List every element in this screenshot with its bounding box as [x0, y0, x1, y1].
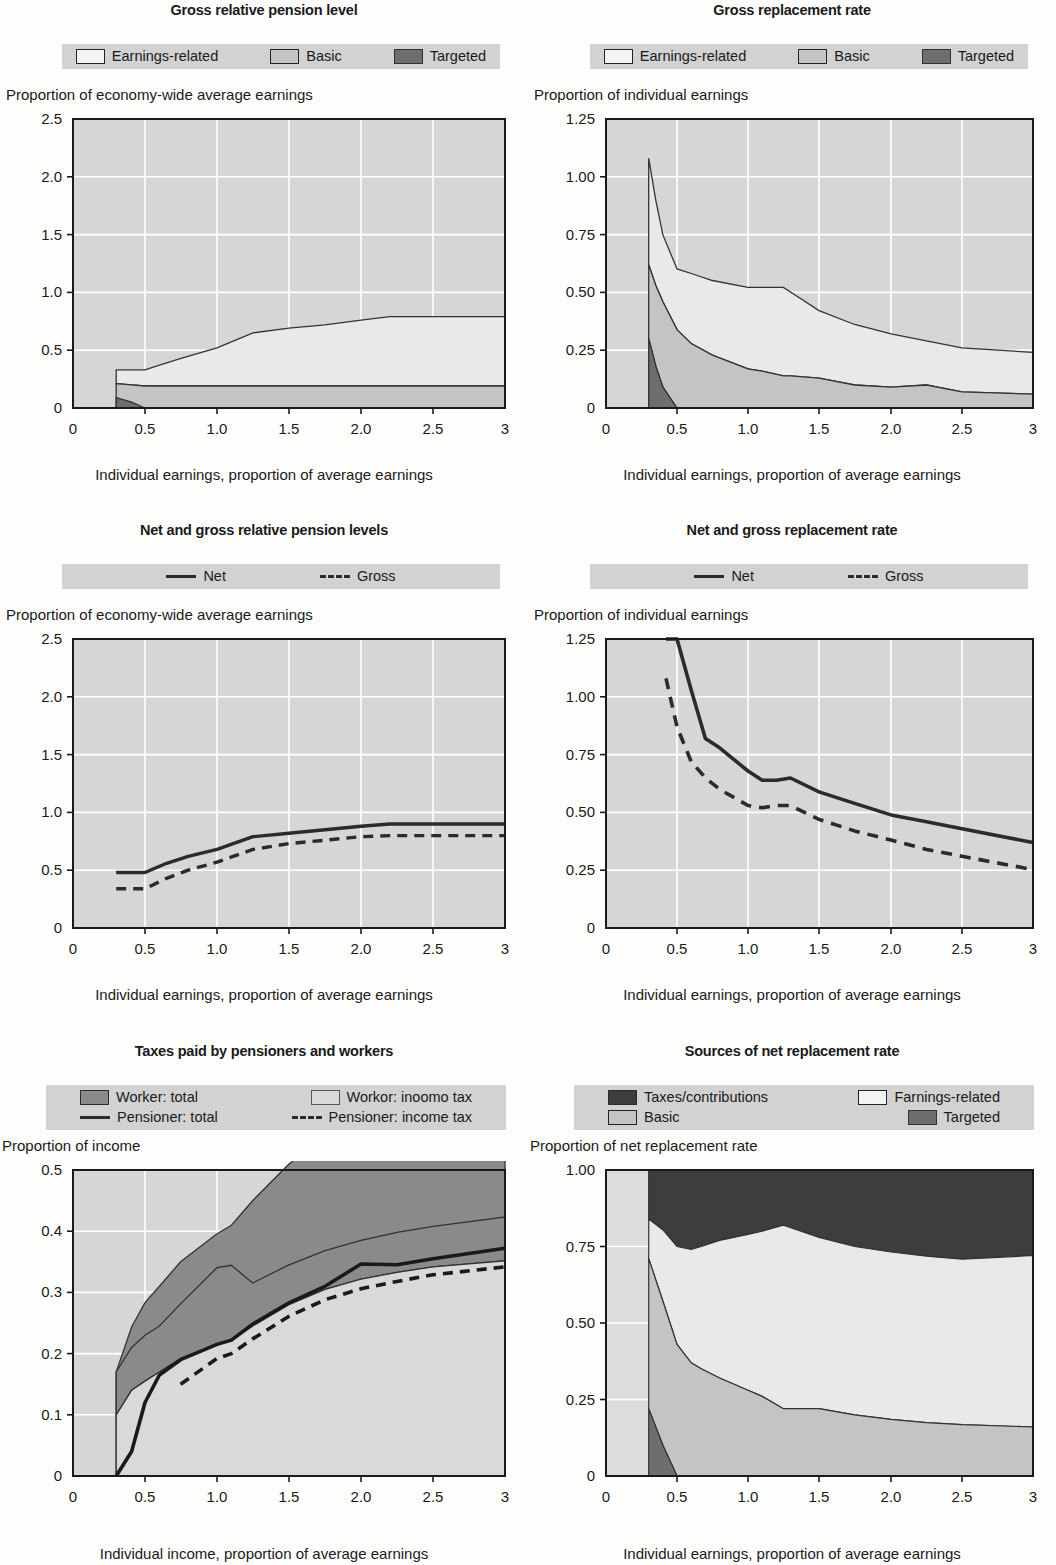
svg-text:0: 0: [587, 1467, 595, 1484]
svg-text:0: 0: [69, 940, 77, 957]
legend-item-targeted: Targeted: [908, 1109, 1000, 1125]
svg-text:1.0: 1.0: [738, 1488, 759, 1505]
legend-label: Gross: [357, 568, 396, 584]
legend-label: Worker: total: [116, 1089, 198, 1105]
svg-text:0.2: 0.2: [41, 1345, 62, 1362]
y-axis-ticks: 0.50.40.3 0.20.10: [41, 1161, 62, 1484]
svg-text:1.0: 1.0: [207, 1488, 228, 1505]
legend-item-basic: Basic: [608, 1109, 679, 1125]
x-axis-title: Individual earnings, proportion of avera…: [528, 986, 1056, 1003]
svg-text:2.5: 2.5: [423, 940, 444, 957]
svg-text:0.50: 0.50: [566, 803, 595, 820]
legend-item-net: Net: [166, 568, 226, 584]
svg-text:1.5: 1.5: [41, 226, 62, 243]
svg-text:0: 0: [602, 420, 610, 437]
svg-text:0.4: 0.4: [41, 1222, 62, 1239]
legend-label: Earnings-related: [112, 48, 218, 64]
y-axis-title: Proportion of economy-wide average earni…: [6, 86, 313, 103]
svg-text:1.00: 1.00: [566, 688, 595, 705]
swatch-earnings-related-icon: [76, 49, 105, 64]
svg-text:2.0: 2.0: [881, 420, 902, 437]
plot-area: 0.50.40.3 0.20.10 00.51.0 1.52.02.5 3: [0, 1161, 528, 1521]
svg-text:1.0: 1.0: [41, 283, 62, 300]
svg-text:2.5: 2.5: [41, 110, 62, 127]
legend-item-targeted: Targeted: [922, 48, 1014, 64]
swatch-worker-total-icon: [80, 1090, 109, 1105]
svg-text:1.5: 1.5: [41, 746, 62, 763]
legend-label: Earnings-related: [640, 48, 746, 64]
legend-item-earnings-related: Earnings-related: [604, 48, 746, 64]
svg-text:3: 3: [1029, 940, 1037, 957]
svg-text:3: 3: [1029, 420, 1037, 437]
legend-item-basic: Basic: [798, 48, 869, 64]
svg-text:1.5: 1.5: [279, 940, 300, 957]
swatch-dashed-line-icon: [292, 1116, 322, 1119]
swatch-solid-line-icon: [694, 575, 724, 578]
svg-text:2.5: 2.5: [41, 630, 62, 647]
svg-text:2.5: 2.5: [423, 1488, 444, 1505]
swatch-dashed-line-icon: [320, 575, 350, 578]
legend-label: Targeted: [944, 1109, 1000, 1125]
y-axis-title: Proportion of individual earnings: [534, 86, 748, 103]
panel-net-and-gross-replacement-rate: Net and gross replacement rate Net Gross…: [528, 500, 1056, 1025]
swatch-worker-income-tax-icon: [311, 1090, 340, 1105]
chart-legend: Earnings-related Basic Targeted: [590, 44, 1028, 69]
legend-label: Basic: [834, 48, 869, 64]
svg-text:2.5: 2.5: [952, 1488, 973, 1505]
plot-area: 1.000.750.50 0.250 00.51.0 1.52.02.5 3: [528, 1161, 1056, 1521]
x-axis-title: Individual earnings, proportion of avera…: [528, 466, 1056, 483]
svg-text:2.0: 2.0: [881, 1488, 902, 1505]
chart-title: Net and gross replacement rate: [528, 522, 1056, 538]
chart-title: Taxes paid by pensioners and workers: [0, 1043, 528, 1059]
svg-text:0.5: 0.5: [135, 420, 156, 437]
svg-text:0: 0: [587, 919, 595, 936]
legend-label: Basic: [644, 1109, 679, 1125]
svg-text:1.0: 1.0: [738, 940, 759, 957]
plot-area: 2.52.01.5 1.00.50 00.51.0 1.52.02.5 3: [0, 630, 528, 960]
legend-item-targeted: Targeted: [394, 48, 486, 64]
svg-text:0: 0: [69, 1488, 77, 1505]
chart-legend: Net Gross: [62, 564, 500, 589]
legend-label: Taxes/contributions: [644, 1089, 768, 1105]
plot-area: 1.251.000.75 0.500.250 00.51.0 1.52.02.5…: [528, 630, 1056, 960]
svg-text:0.75: 0.75: [566, 1238, 595, 1255]
svg-text:2.0: 2.0: [351, 940, 372, 957]
svg-text:1.00: 1.00: [566, 168, 595, 185]
legend-item-pensioner-income-tax: Pensioner: income tax: [292, 1109, 472, 1125]
svg-text:2.0: 2.0: [41, 688, 62, 705]
charts-grid: Gross relative pension level Earnings-re…: [0, 0, 1056, 1565]
svg-text:2.0: 2.0: [351, 1488, 372, 1505]
panel-sources-of-net-replacement-rate: Sources of net replacement rate Taxes/co…: [528, 1025, 1056, 1565]
svg-text:1.0: 1.0: [738, 420, 759, 437]
swatch-basic-icon: [270, 49, 299, 64]
svg-text:1.5: 1.5: [809, 420, 830, 437]
svg-text:0.75: 0.75: [566, 226, 595, 243]
swatch-basic-icon: [798, 49, 827, 64]
y-axis-title: Proportion of individual earnings: [534, 606, 748, 623]
svg-text:0.75: 0.75: [566, 746, 595, 763]
legend-item-pensioner-total: Pensioner: total: [80, 1109, 218, 1125]
swatch-basic-icon: [608, 1110, 637, 1125]
svg-text:0: 0: [54, 1467, 62, 1484]
x-axis-title: Individual earnings, proportion of avera…: [0, 466, 528, 483]
legend-item-gross: Gross: [848, 568, 924, 584]
svg-text:0.5: 0.5: [135, 940, 156, 957]
svg-text:0.50: 0.50: [566, 283, 595, 300]
svg-text:1.00: 1.00: [566, 1161, 595, 1178]
legend-label: Targeted: [958, 48, 1014, 64]
svg-text:3: 3: [501, 1488, 509, 1505]
svg-text:1.25: 1.25: [566, 630, 595, 647]
legend-label: Net: [731, 568, 754, 584]
svg-text:0.5: 0.5: [667, 1488, 688, 1505]
svg-text:1.5: 1.5: [279, 1488, 300, 1505]
x-axis-ticks: 00.51.0 1.52.02.5 3: [602, 940, 1037, 957]
svg-text:2.5: 2.5: [952, 940, 973, 957]
chart-title: Gross replacement rate: [528, 2, 1056, 18]
swatch-targeted-icon: [394, 49, 423, 64]
svg-text:0.25: 0.25: [566, 1391, 595, 1408]
svg-text:2.0: 2.0: [41, 168, 62, 185]
plot-area: 2.52.01.5 1.00.50 00.51.0 1.52.02.5 3: [0, 110, 528, 440]
svg-text:0.5: 0.5: [41, 861, 62, 878]
svg-text:0.5: 0.5: [41, 1161, 62, 1178]
svg-text:1.5: 1.5: [809, 940, 830, 957]
